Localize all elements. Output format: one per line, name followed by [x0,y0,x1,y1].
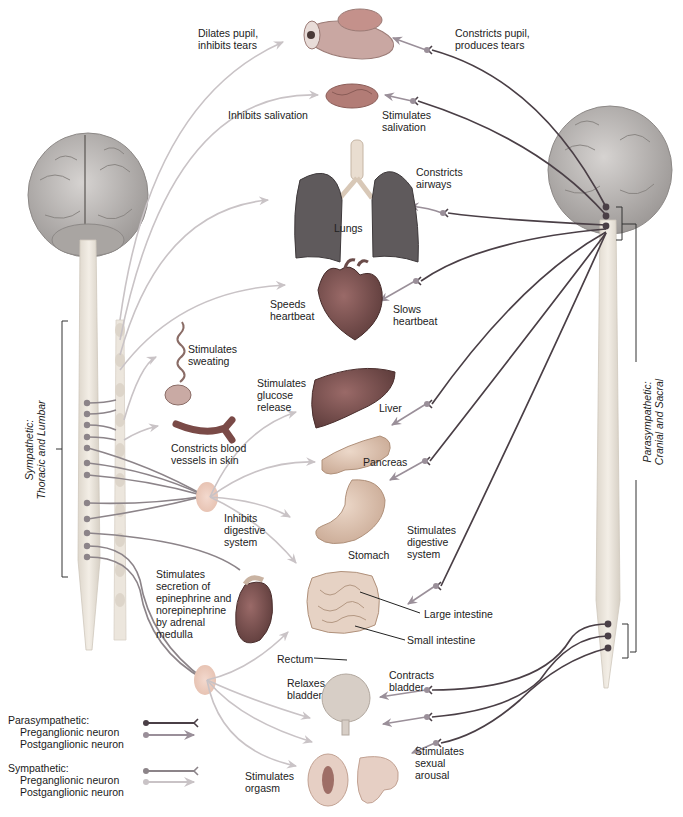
label-para-digestive: Stimulates digestive system [407,524,456,560]
mesenteric-ganglion [194,665,216,695]
label-sym-genitals: Stimulates orgasm [245,770,294,794]
right-spinal-cord [596,220,620,688]
label-para-airways: Constricts airways [416,166,463,190]
sympathetic-bracket [56,321,68,577]
label-parasympathetic-division: Parasympathetic: Cranial and Sacral [641,367,665,477]
left-spinal-cord [78,240,126,650]
label-sym-digestive: Inhibits digestive system [224,512,265,548]
kidney-organ [236,578,273,643]
intestines-organ [307,571,379,633]
liver-organ [312,368,395,428]
label-para-salivary: Stimulates salivation [382,109,431,133]
heart-organ [318,260,382,340]
pancreas-organ [322,436,390,474]
ans-diagram: Dilates pupil, inhibits tears Inhibits s… [0,0,683,817]
legend-parasympathetic-post: Postganglionic neuron [8,738,238,750]
label-sym-eye: Dilates pupil, inhibits tears [198,27,258,51]
lungs-organ [295,140,419,262]
label-para-heart: Slows heartbeat [393,303,437,327]
diagram-graphics [0,0,683,817]
label-sym-vessels: Constricts blood vessels in skin [171,442,246,466]
label-stomach: Stomach [348,549,389,561]
label-sym-liver: Stimulates glucose release [257,377,306,413]
bladder-organ [322,674,370,735]
stomach-organ [316,480,385,544]
legend-parasympathetic-pre: Preganglionic neuron [8,726,238,738]
label-large-intestine: Large intestine [424,608,493,620]
right-brain [548,106,672,234]
salivary-gland-organ [326,84,378,108]
label-sym-salivary: Inhibits salivation [228,109,308,121]
label-para-eye: Constricts pupil, produces tears [455,27,530,51]
label-rectum: Rectum [277,653,313,665]
label-sympathetic-division: Sympathetic: Thoracic and Lumbar [23,395,47,505]
left-brain [28,133,148,257]
label-small-intestine: Small intestine [407,634,475,646]
label-sym-adrenal: Stimulates secretion of epinephrine and … [156,568,231,640]
label-para-bladder: Contracts bladder [389,669,434,693]
blood-vessel-organ [176,420,232,440]
genitals-organ [308,754,398,806]
label-lungs: Lungs [334,222,363,234]
label-liver: Liver [379,402,402,414]
label-sym-sweat: Stimulates sweating [188,343,237,367]
legend-sympathetic-post: Postganglionic neuron [8,786,238,798]
label-pancreas: Pancreas [363,456,407,468]
label-sym-heart: Speeds heartbeat [270,298,314,322]
legend-sympathetic-pre: Preganglionic neuron [8,774,238,786]
label-sym-bladder: Relaxes bladder [287,677,325,701]
legend-sympathetic-header: Sympathetic: [8,762,238,774]
legend: Parasympathetic: Preganglionic neuron Po… [8,714,238,798]
eye-organ [304,9,396,64]
legend-parasympathetic-header: Parasympathetic: [8,714,238,726]
label-para-genitals: Stimulates sexual arousal [415,745,464,781]
